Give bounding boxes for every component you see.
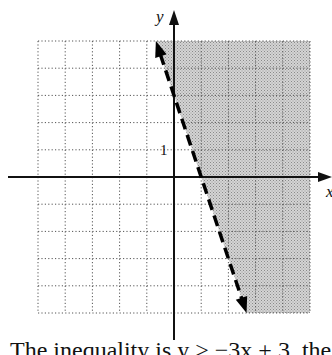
y-axis-label: y [154,7,164,26]
y-axis-arrow-icon [169,10,179,25]
coordinate-plane: yx1 [0,0,332,355]
x-axis-label: x [325,182,332,201]
boundary-arrow-down-icon [236,296,247,313]
caption-text: The inequality is y > −3x + 3, the bound… [10,338,332,355]
x-axis-arrow-icon [318,172,332,182]
y-tick-label-1: 1 [160,142,168,158]
